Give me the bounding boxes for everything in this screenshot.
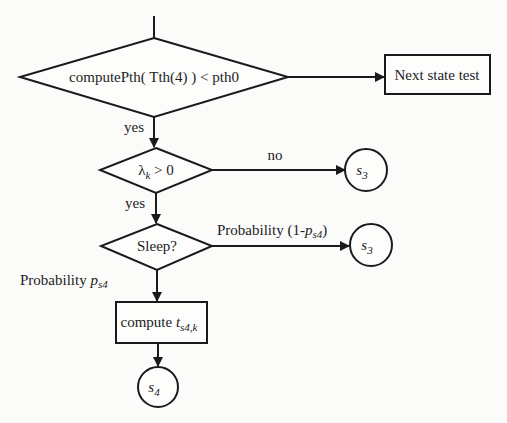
decision-sleep-label: Sleep? [137, 238, 177, 254]
edge-d3-right-label: Probability (1-ps4) [217, 222, 327, 240]
next-state-test-label: Next state test [395, 67, 481, 83]
decision-sleep: Sleep? [101, 224, 212, 270]
state-s4: s4 [138, 367, 178, 407]
state-s3-b: s3 [350, 224, 392, 266]
decision-compute-pth-label: computePth( Tth(4) ) < pth0 [69, 69, 239, 86]
compute-box: compute ts4,k [116, 302, 207, 343]
edge-d2-no-label: no [268, 147, 283, 163]
edge-d1-yes-label: yes [124, 119, 144, 135]
state-s3-a: s3 [345, 149, 387, 191]
edge-d2-yes-label: yes [125, 195, 145, 211]
edge-d3-down-label: Probability ps4 [20, 272, 108, 290]
next-state-test-box: Next state test [385, 55, 490, 94]
flowchart: computePth( Tth(4) ) < pth0 Next state t… [0, 0, 507, 423]
decision-compute-pth: computePth( Tth(4) ) < pth0 [20, 38, 288, 117]
decision-lambda: λk > 0 [100, 148, 212, 193]
